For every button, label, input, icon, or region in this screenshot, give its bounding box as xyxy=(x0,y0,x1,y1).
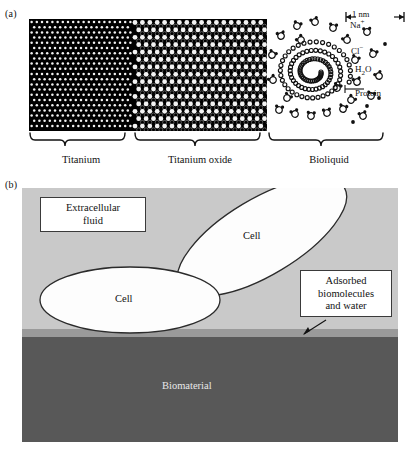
water-molecule xyxy=(281,91,293,103)
brace-bioliquid xyxy=(269,133,383,146)
figure-root: (a) xyxy=(0,0,408,457)
region-label-titanium-oxide: Titanium oxide xyxy=(133,154,267,165)
callout-ecf-line2: fluid xyxy=(41,215,145,228)
water-molecule xyxy=(351,76,362,86)
callout-extracellular-fluid: Extracellular fluid xyxy=(40,197,146,232)
callout-adsorbed-line3: and water xyxy=(301,300,391,313)
water-molecule xyxy=(322,107,333,117)
water-molecule xyxy=(267,73,279,85)
cell-lower-label: Cell xyxy=(115,293,133,304)
water-molecule xyxy=(328,22,339,32)
region-label-bioliquid: Bioliquid xyxy=(267,154,391,165)
lattice-svg xyxy=(29,19,267,131)
water-label: H2O xyxy=(355,64,372,77)
water-molecule xyxy=(274,104,285,114)
water-molecule xyxy=(373,69,385,81)
bioliquid-svg xyxy=(267,10,408,132)
protein-coil xyxy=(278,40,352,100)
water-molecule xyxy=(306,111,316,120)
brace-titanium-oxide xyxy=(135,133,260,146)
ion-particle xyxy=(351,120,355,124)
callout-adsorbed-line1: Adsorbed xyxy=(301,275,391,288)
water-molecule xyxy=(289,108,300,119)
panel-b-label: (b) xyxy=(5,179,17,190)
water-molecule xyxy=(294,33,306,45)
panel-a: (a) xyxy=(0,0,408,172)
water-molecule xyxy=(368,48,379,59)
water-molecule xyxy=(338,103,349,113)
bioliquid-region xyxy=(267,10,408,132)
adsorbed-layer xyxy=(22,329,398,337)
protein-label: Protein xyxy=(355,88,381,98)
callout-ecf-line1: Extracellular xyxy=(41,202,145,215)
water-molecule xyxy=(357,110,368,121)
ion-particle xyxy=(365,104,369,108)
callout-adsorbed-line2: biomolecules xyxy=(301,288,391,301)
cell-upper-label: Cell xyxy=(243,230,261,241)
biomaterial-label: Biomaterial xyxy=(162,380,212,391)
water-molecule xyxy=(309,16,321,27)
region-label-titanium: Titanium xyxy=(29,154,133,165)
water-molecule xyxy=(275,30,286,40)
callout-adsorbed-biomolecules: Adsorbed biomolecules and water xyxy=(300,270,392,317)
ion-particle xyxy=(383,42,387,46)
water-molecule xyxy=(267,48,278,60)
chloride-ion-label: Cl− xyxy=(351,44,363,56)
brace-titanium xyxy=(30,133,125,146)
water-molecule xyxy=(292,20,303,31)
panel-a-label: (a) xyxy=(5,8,17,19)
region-braces xyxy=(0,132,408,154)
atomic-lattice xyxy=(29,19,267,131)
sodium-ion-label: Na+ xyxy=(350,18,364,30)
